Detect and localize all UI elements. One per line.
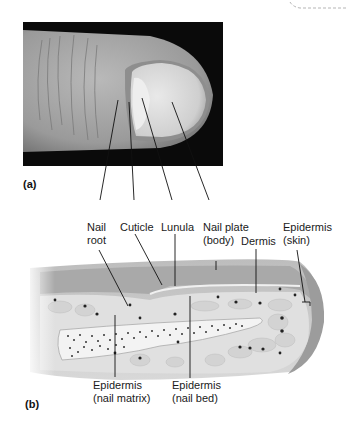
label-epidermis-nail-matrix-line2: (nail matrix) bbox=[93, 392, 150, 405]
fingertip-photo bbox=[23, 22, 223, 200]
label-epidermis-nail-matrix-line1: Epidermis bbox=[93, 379, 150, 392]
label-lunula: Lunula bbox=[161, 221, 194, 234]
label-epidermis-nail-bed-line2: (nail bed) bbox=[172, 392, 221, 405]
label-epidermis-skin: Epidermis (skin) bbox=[283, 221, 332, 247]
panel-tag-a: (a) bbox=[23, 178, 36, 190]
label-epidermis-nail-bed: Epidermis (nail bed) bbox=[172, 379, 221, 405]
figure-canvas bbox=[0, 0, 346, 425]
label-nail-root: Nail root bbox=[87, 221, 106, 247]
label-nail-plate-line1: Nail plate bbox=[203, 221, 249, 234]
label-cuticle: Cuticle bbox=[120, 221, 154, 234]
panel-tag-b: (b) bbox=[25, 398, 39, 410]
label-dermis: Dermis bbox=[241, 235, 276, 248]
label-epidermis-nail-matrix: Epidermis (nail matrix) bbox=[93, 379, 150, 405]
label-epidermis-skin-line1: Epidermis bbox=[283, 221, 332, 234]
label-dermis-line1: Dermis bbox=[241, 235, 276, 248]
dashed-corner-mark bbox=[290, 2, 346, 8]
label-epidermis-nail-bed-line1: Epidermis bbox=[172, 379, 221, 392]
label-nail-root-line1: Nail bbox=[87, 221, 106, 234]
label-lunula-line1: Lunula bbox=[161, 221, 194, 234]
label-cuticle-line1: Cuticle bbox=[120, 221, 154, 234]
nail-cross-section bbox=[25, 234, 324, 385]
label-nail-root-line2: root bbox=[87, 234, 106, 247]
label-epidermis-skin-line2: (skin) bbox=[283, 234, 332, 247]
